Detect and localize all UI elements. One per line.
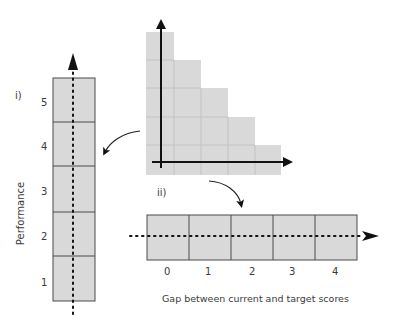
curved-arrow-to-row-icon <box>209 181 241 204</box>
x-tick-3: 3 <box>289 267 295 277</box>
x-tick-1: 1 <box>205 267 211 277</box>
gap-arrowhead-icon <box>362 231 379 241</box>
panel-i-label: i) <box>15 91 22 101</box>
y-tick-1: 1 <box>41 278 47 288</box>
y-tick-3: 3 <box>41 187 47 197</box>
x-tick-2: 2 <box>249 267 255 277</box>
y-tick-5: 5 <box>41 98 47 108</box>
x-axis-label: Gap between current and target scores <box>162 293 349 304</box>
y-axis-label: Performance <box>15 179 26 249</box>
panel-ii-label: ii) <box>157 188 166 198</box>
staircase-grid <box>146 32 281 175</box>
x-tick-4: 4 <box>332 267 338 277</box>
x-tick-0: 0 <box>164 267 170 277</box>
y-tick-2: 2 <box>41 232 47 242</box>
curved-arrow-to-column-icon <box>105 131 140 152</box>
y-tick-4: 4 <box>41 142 47 152</box>
performance-column <box>53 78 95 301</box>
performance-arrowhead-icon <box>68 53 78 70</box>
gap-row <box>147 215 357 260</box>
